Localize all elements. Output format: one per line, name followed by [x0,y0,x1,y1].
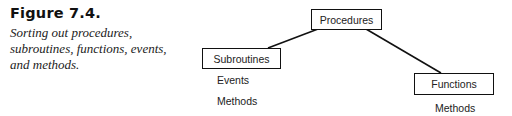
connector-procedures-subroutines [268,29,318,48]
node-functions-label: Functions [431,78,477,90]
node-subroutines-label: Subroutines [213,53,269,65]
node-functions: Functions [414,73,494,95]
node-procedures-label: Procedures [320,14,374,26]
subroutines-child-methods: Methods [217,95,257,107]
subroutines-child-events: Events [217,74,249,86]
node-subroutines: Subroutines [202,48,281,69]
node-procedures: Procedures [311,9,382,30]
connector-procedures-functions [366,29,441,73]
functions-child-methods: Methods [435,102,475,114]
